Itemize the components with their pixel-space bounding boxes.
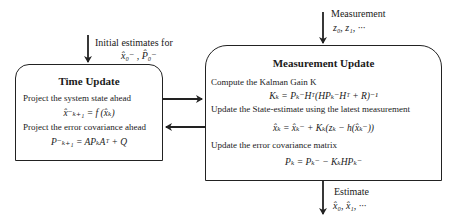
initial-estimates-values: x̂₀⁻ , P̂₀⁻: [121, 50, 157, 61]
measurement-update-step-2: Update the State-estimate using the late…: [211, 104, 410, 114]
measurement-update-box: Measurement Update Compute the Kalman Ga…: [205, 45, 442, 181]
measurement-update-eq-1: Kₖ = Pₖ⁻Hᵀ(HPₖ⁻Hᵀ + R)⁻¹: [206, 90, 441, 101]
measurement-update-eq-3: Pₖ = Pₖ⁻ − KₖHPₖ⁻: [206, 156, 441, 167]
measurement-values: z₀, z₁, ···: [333, 22, 365, 33]
time-update-eq-1: x̂⁻ₖ₊₁ = f (x̂ₖ): [16, 107, 162, 118]
measurement-update-title: Measurement Update: [206, 57, 441, 69]
time-update-eq-2: P⁻ₖ₊₁ = APₖAᵀ + Q: [16, 136, 162, 147]
estimate-values: x̂₀, x̂₁, ···: [333, 200, 366, 211]
initial-estimates-label: Initial estimates for: [95, 37, 173, 48]
time-update-box: Time Update Project the system state ahe…: [15, 64, 163, 161]
measurement-update-step-3: Update the error covariance matrix: [211, 140, 337, 150]
measurement-update-eq-2: x̂ₖ = x̂ₖ⁻ + Kₖ(zₖ − h(x̂ₖ⁻)): [206, 122, 441, 133]
time-update-step-2: Project the error covariance ahead: [23, 122, 146, 132]
measurement-label: Measurement: [331, 8, 385, 19]
time-update-title: Time Update: [16, 75, 162, 87]
estimate-label: Estimate: [334, 186, 369, 197]
time-update-step-1: Project the system state ahead: [23, 93, 131, 103]
measurement-update-step-1: Compute the Kalman Gain K: [211, 77, 316, 87]
